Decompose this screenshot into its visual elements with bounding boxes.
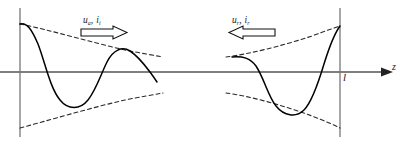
incident-wave-arrow <box>81 26 127 39</box>
reflected-wave-curve <box>232 26 340 115</box>
reflected-wave-label: ur,ir <box>232 16 250 26</box>
reflected-voltage-subscript: r <box>237 20 239 26</box>
reflected-label-separator: , <box>239 15 241 25</box>
reflected-wave-arrow <box>229 26 275 39</box>
reflected-lower-envelope <box>226 93 340 128</box>
incident-wave-label: ua,ii <box>83 16 101 26</box>
reflected-arrow-shape <box>229 26 275 39</box>
incident-lower-envelope <box>20 93 163 128</box>
incident-current-subscript: i <box>99 20 101 26</box>
incident-label-separator: , <box>91 15 93 25</box>
reflected-current-subscript: r <box>247 20 249 26</box>
transmission-line-figure: ua,ii ur,ir l z <box>0 0 405 144</box>
line-length-marker: l <box>343 72 346 83</box>
incident-arrow-shape <box>81 26 127 39</box>
z-axis-group <box>0 68 393 77</box>
incident-voltage-subscript: a <box>88 20 91 26</box>
z-axis-label: z <box>392 62 396 72</box>
